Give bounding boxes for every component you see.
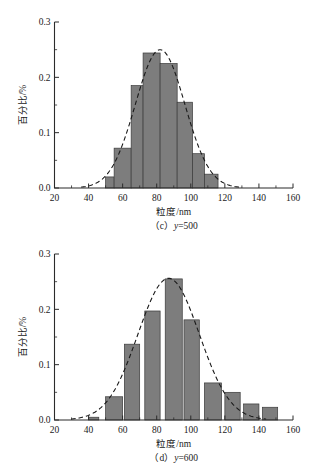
x-tick-label: 160 [286,424,301,434]
histogram-bar [192,154,204,188]
figure-caption: （c）y=500 [150,220,198,231]
histogram-bar [184,319,199,419]
histogram-bar [106,177,115,188]
histogram-bar [262,407,277,420]
y-tick-label: 0.0 [39,183,51,193]
histogram-bar [204,174,218,188]
x-tick-label: 80 [152,193,162,203]
figure-caption: （d）y=600 [149,452,198,463]
x-tick-label: 80 [152,424,162,434]
figure-d: 204060801001201401600.00.10.20.3粒度/nm百分比… [0,232,314,463]
chart-c-svg: 204060801001201401600.00.10.20.3粒度/nm百分比… [0,0,314,232]
figure-c: 204060801001201401600.00.10.20.3粒度/nm百分比… [0,0,314,232]
plot-c: 204060801001201401600.00.10.20.3粒度/nm百分比… [0,0,314,232]
x-tick-label: 60 [118,424,128,434]
caption-prefix: （c） [150,220,174,231]
x-tick-label: 60 [118,193,128,203]
histogram-bar [165,278,182,419]
x-tick-label: 120 [218,424,233,434]
y-tick-label: 0.3 [39,17,51,27]
caption-prefix: （d） [149,452,174,463]
caption-value: =500 [178,221,198,231]
caption-value: =600 [178,453,198,463]
x-tick-label: 20 [50,424,60,434]
x-axis-title: 粒度/nm [156,206,191,217]
histogram-bar [106,396,123,419]
histogram-bar [204,382,221,419]
y-tick-label: 0.1 [39,128,51,138]
x-tick-label: 160 [286,193,301,203]
histogram-bar [131,86,143,188]
x-tick-label: 100 [184,193,199,203]
x-tick-label: 20 [50,193,60,203]
y-tick-label: 0.0 [39,415,51,425]
histogram-bar [177,102,192,188]
chart-d-svg: 204060801001201401600.00.10.20.3粒度/nm百分比… [0,232,314,463]
bars-group [106,53,218,188]
y-tick-label: 0.2 [39,304,51,314]
histogram-bar [114,148,131,188]
y-tick-label: 0.3 [39,249,51,259]
histogram-bar [143,53,160,188]
histogram-bar [145,310,160,419]
x-tick-label: 140 [252,193,267,203]
bars-group [89,278,278,419]
plot-d: 204060801001201401600.00.10.20.3粒度/nm百分比… [0,232,314,463]
x-tick-label: 120 [218,193,233,203]
y-tick-label: 0.2 [39,73,51,83]
x-axis-title: 粒度/nm [156,438,191,449]
x-tick-label: 100 [184,424,199,434]
histogram-bar [124,344,139,420]
y-axis-title: 百分比/% [17,316,28,357]
histogram-bar [160,64,177,189]
x-tick-label: 40 [84,193,94,203]
y-axis-title: 百分比/% [17,85,28,126]
y-tick-label: 0.1 [39,360,51,370]
x-tick-label: 40 [84,424,94,434]
x-tick-label: 140 [252,424,267,434]
